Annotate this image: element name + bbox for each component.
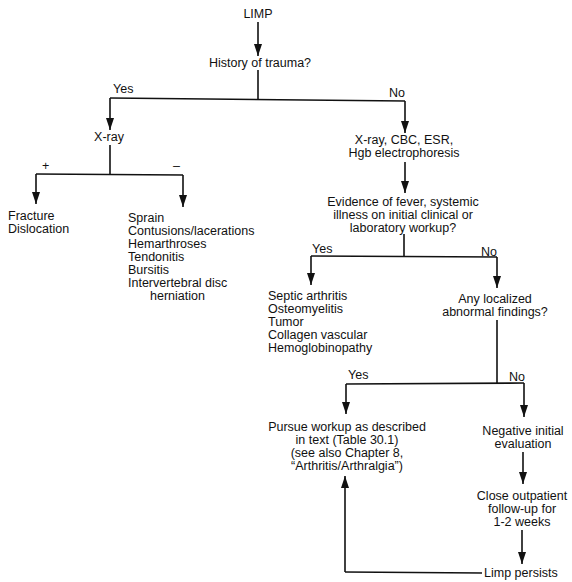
node-pursue-workup: Pursue workup as described in text (Tabl… bbox=[268, 421, 426, 473]
limp-persists-text: Limp persists bbox=[484, 566, 558, 580]
list-item: herniation bbox=[128, 290, 254, 303]
hgb-line: Hgb electrophoresis bbox=[348, 147, 459, 160]
node-xray: X-ray bbox=[94, 131, 124, 144]
pursue-line: “Arthritis/Arthralgia”) bbox=[268, 460, 426, 473]
flowchart-canvas: LIMP History of trauma? Yes No X-ray + –… bbox=[0, 0, 572, 582]
node-history-of-trauma: History of trauma? bbox=[209, 57, 311, 70]
edge-label-trauma-yes: Yes bbox=[113, 83, 133, 96]
edge-label-fever-yes: Yes bbox=[312, 243, 332, 256]
node-evidence-of-fever: Evidence of fever, systemic illness on i… bbox=[327, 196, 478, 235]
node-xray-cbc-esr: X-ray, CBC, ESR, Hgb electrophoresis bbox=[348, 134, 459, 160]
node-close-followup: Close outpatient follow-up for 1-2 weeks bbox=[477, 490, 567, 529]
dislocation-text: Dislocation bbox=[8, 223, 69, 236]
node-limp-text: LIMP bbox=[243, 7, 272, 21]
edge-label-localized-no: No bbox=[509, 371, 525, 384]
node-negative-initial: Negative initial evaluation bbox=[482, 425, 563, 451]
node-xray-text: X-ray bbox=[94, 130, 124, 144]
edge-label-localized-yes: Yes bbox=[348, 369, 368, 382]
edge-label-trauma-no: No bbox=[389, 87, 405, 100]
node-limp-persists: Limp persists bbox=[484, 567, 558, 580]
evidence-line: laboratory workup? bbox=[327, 222, 478, 235]
node-limp: LIMP bbox=[243, 8, 272, 21]
followup-line: 1-2 weeks bbox=[477, 516, 567, 529]
edge-label-xray-positive: + bbox=[42, 160, 49, 173]
list-item: Hemoglobinopathy bbox=[268, 342, 372, 355]
edge-label-fever-no: No bbox=[481, 246, 497, 259]
node-xray-negative-list: Sprain Contusions/lacerations Hemarthros… bbox=[128, 212, 254, 303]
negative-line: evaluation bbox=[482, 438, 563, 451]
node-systemic-list: Septic arthritis Osteomyelitis Tumor Col… bbox=[268, 290, 372, 355]
node-any-localized: Any localized abnormal findings? bbox=[442, 293, 548, 319]
edge-label-xray-negative: – bbox=[173, 160, 180, 173]
node-history-text: History of trauma? bbox=[209, 56, 311, 70]
localized-line: abnormal findings? bbox=[442, 306, 548, 319]
node-fracture-dislocation: Fracture Dislocation bbox=[8, 210, 69, 236]
